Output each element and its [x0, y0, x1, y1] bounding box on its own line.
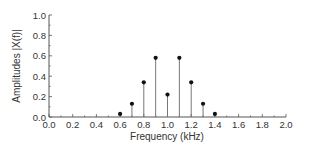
stem-marker	[177, 56, 181, 60]
stem-point	[189, 80, 193, 117]
y-tick-label: 0.8	[33, 30, 46, 41]
stem-marker	[130, 102, 134, 106]
stem-marker	[189, 80, 193, 84]
stem-point	[142, 80, 146, 117]
stem-marker	[213, 112, 217, 116]
stem-point	[201, 102, 205, 117]
y-axis-label: Amplitudes |X(f)|	[11, 29, 22, 103]
y-tick-label: 0.4	[33, 71, 46, 82]
axis-labels: Frequency (kHz) Amplitudes |X(f)|	[11, 29, 204, 142]
stem-point	[154, 56, 158, 117]
x-axis-label: Frequency (kHz)	[130, 131, 204, 142]
stem-marker	[201, 102, 205, 106]
y-tick-label: 0.6	[33, 50, 46, 61]
stem-marker	[165, 92, 169, 96]
x-tick-label: 0.4	[90, 119, 103, 130]
stem-marker	[154, 56, 158, 60]
stem-point	[118, 112, 122, 117]
x-tick-label: 1.4	[208, 119, 221, 130]
stem-point	[213, 112, 217, 117]
x-tick-label: 2.0	[279, 119, 292, 130]
axes: 0.00.20.40.60.81.01.21.41.61.82.00.00.20…	[33, 10, 293, 131]
x-tick-label: 0.6	[113, 119, 126, 130]
stem-chart: 0.00.20.40.60.81.01.21.41.61.82.00.00.20…	[0, 0, 309, 153]
x-tick-label: 1.8	[256, 119, 269, 130]
stem-marker	[142, 80, 146, 84]
x-tick-label: 0.2	[66, 119, 79, 130]
y-tick-label: 0.0	[33, 112, 46, 123]
y-tick-label: 1.0	[33, 10, 46, 21]
x-tick-label: 0.8	[137, 119, 150, 130]
stem-point	[177, 56, 181, 117]
x-tick-label: 1.2	[185, 119, 198, 130]
stem-point	[130, 102, 134, 117]
stem-point	[165, 92, 169, 117]
stem-series	[118, 56, 217, 117]
x-tick-label: 1.6	[232, 119, 245, 130]
y-tick-label: 0.2	[33, 91, 46, 102]
stem-marker	[118, 112, 122, 116]
x-tick-label: 1.0	[161, 119, 174, 130]
